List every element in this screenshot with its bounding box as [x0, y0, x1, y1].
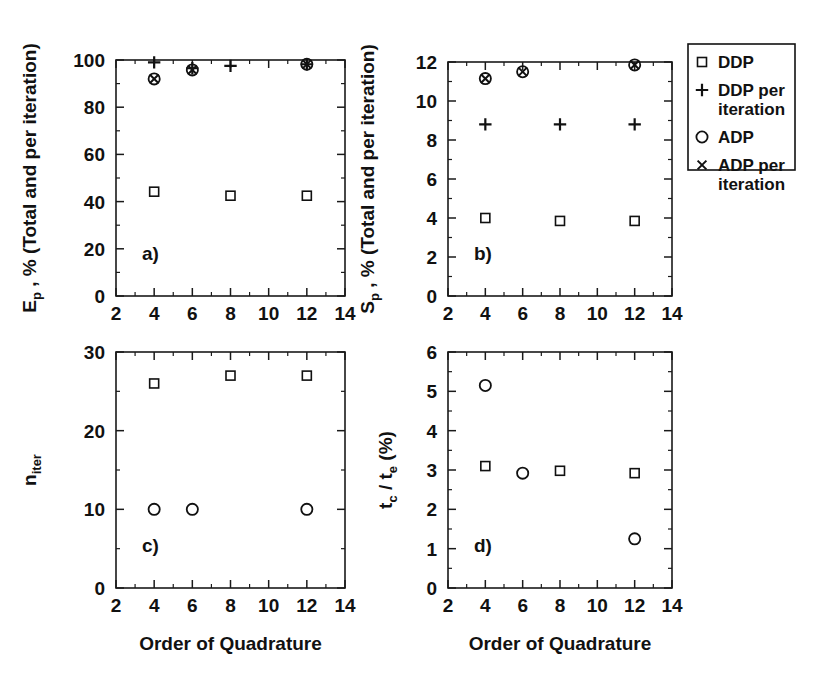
- series-a-plus: [148, 56, 313, 74]
- xtick-label-d-3: 8: [555, 595, 566, 616]
- ytick-label-b-6: 12: [416, 52, 437, 73]
- series-d-circle: [480, 380, 641, 545]
- series-c-square: [150, 371, 312, 388]
- marker-circle: [629, 533, 640, 544]
- xtick-label-b-0: 2: [443, 303, 454, 324]
- ytick-label-c-1: 10: [84, 499, 105, 520]
- ytick-label-d-1: 1: [426, 539, 437, 560]
- xlabel-d: Order of Quadrature: [469, 633, 652, 654]
- xtick-label-c-3: 8: [225, 595, 236, 616]
- ytick-label-d-4: 4: [426, 421, 437, 442]
- marker-circle: [149, 504, 160, 515]
- ylabel-d: tc / te (%): [375, 431, 400, 509]
- marker-cross: [150, 74, 159, 83]
- xtick-label-c-1: 4: [149, 595, 160, 616]
- panel-letter-c: c): [142, 535, 159, 556]
- ytick-label-a-4: 80: [84, 97, 105, 118]
- series-a-square: [150, 187, 312, 200]
- xtick-label-b-6: 14: [661, 303, 683, 324]
- marker-square: [556, 216, 565, 225]
- figure-svg: 2468101214020406080100a)2468101214024681…: [0, 0, 817, 683]
- marker-plus: [148, 56, 160, 68]
- xtick-label-b-4: 10: [587, 303, 608, 324]
- panel-a: 2468101214020406080100a): [73, 50, 356, 324]
- ylabel-c: niter: [19, 454, 44, 486]
- ytick-label-d-6: 6: [426, 342, 437, 363]
- ytick-label-c-0: 0: [94, 578, 105, 599]
- ytick-label-d-0: 0: [426, 578, 437, 599]
- marker-square: [226, 191, 235, 200]
- ytick-label-a-5: 100: [73, 50, 105, 71]
- legend-label-1: DDP per: [718, 81, 785, 100]
- marker-circle: [480, 380, 491, 391]
- panel-letter-a: a): [142, 243, 159, 264]
- ytick-label-d-5: 5: [426, 381, 437, 402]
- xtick-label-c-0: 2: [111, 595, 122, 616]
- marker-circle: [187, 504, 198, 515]
- ylabel-b: Sp , % (Total and per iteration): [357, 44, 382, 313]
- marker-plus: [628, 118, 640, 130]
- xtick-label-d-6: 14: [661, 595, 683, 616]
- ytick-label-b-4: 8: [426, 130, 437, 151]
- marker-cross: [481, 74, 490, 83]
- marker-plus: [224, 60, 236, 72]
- ytick-label-a-3: 60: [84, 144, 105, 165]
- marker-square: [556, 466, 565, 475]
- marker-plus: [554, 118, 566, 130]
- ylabel-a: Ep , % (Total and per iteration): [19, 43, 44, 312]
- ytick-label-b-2: 4: [426, 208, 437, 229]
- legend-label2-1: iteration: [718, 100, 785, 119]
- marker-square: [630, 469, 639, 478]
- ytick-label-a-0: 0: [94, 286, 105, 307]
- panel-letter-b: b): [474, 243, 492, 264]
- series-b-square: [481, 214, 639, 226]
- xtick-label-a-4: 10: [258, 303, 279, 324]
- ylabel-text-d: tc / te (%): [375, 431, 400, 509]
- marker-circle: [517, 468, 528, 479]
- xtick-label-a-3: 8: [225, 303, 236, 324]
- marker-square: [481, 214, 490, 223]
- xtick-label-a-0: 2: [111, 303, 122, 324]
- legend: DDPDDP periterationADPADP periteration: [688, 44, 795, 194]
- marker-square: [226, 371, 235, 380]
- xtick-label-b-3: 8: [555, 303, 566, 324]
- xtick-label-d-2: 6: [517, 595, 528, 616]
- ylabel-text-c: niter: [19, 454, 44, 486]
- xtick-label-b-1: 4: [480, 303, 491, 324]
- legend-label-0: DDP: [718, 53, 754, 72]
- legend-label2-3: iteration: [718, 175, 785, 194]
- xtick-label-b-2: 6: [517, 303, 528, 324]
- xtick-label-b-5: 12: [624, 303, 645, 324]
- xtick-label-c-5: 12: [296, 595, 317, 616]
- ytick-label-a-1: 20: [84, 239, 105, 260]
- series-c-circle: [149, 504, 313, 515]
- panel-letter-d: d): [474, 535, 492, 556]
- xtick-label-c-4: 10: [258, 595, 279, 616]
- marker-square: [630, 216, 639, 225]
- xtick-label-d-0: 2: [443, 595, 454, 616]
- ylabel-text-a: Ep , % (Total and per iteration): [19, 43, 44, 312]
- marker-square: [302, 191, 311, 200]
- ytick-label-d-3: 3: [426, 460, 437, 481]
- xtick-label-d-4: 10: [587, 595, 608, 616]
- legend-label-3: ADP per: [718, 156, 785, 175]
- ytick-label-a-2: 40: [84, 192, 105, 213]
- xtick-label-a-1: 4: [149, 303, 160, 324]
- panel-c: 24681012140102030c): [84, 342, 356, 616]
- ytick-label-b-5: 10: [416, 91, 437, 112]
- marker-square: [150, 187, 159, 196]
- xtick-label-a-6: 14: [334, 303, 356, 324]
- figure-container: 2468101214020406080100a)2468101214024681…: [0, 0, 817, 683]
- ylabel-text-b: Sp , % (Total and per iteration): [357, 44, 382, 313]
- xlabel-c: Order of Quadrature: [139, 633, 322, 654]
- series-b-plus: [479, 118, 641, 130]
- ytick-label-d-2: 2: [426, 499, 437, 520]
- xtick-label-c-6: 14: [334, 595, 356, 616]
- xtick-label-d-5: 12: [624, 595, 645, 616]
- marker-square: [150, 379, 159, 388]
- ytick-label-b-3: 6: [426, 169, 437, 190]
- xtick-label-a-2: 6: [187, 303, 198, 324]
- xtick-label-d-1: 4: [480, 595, 491, 616]
- panel-d: 24681012140123456d): [426, 342, 683, 616]
- marker-circle: [301, 504, 312, 515]
